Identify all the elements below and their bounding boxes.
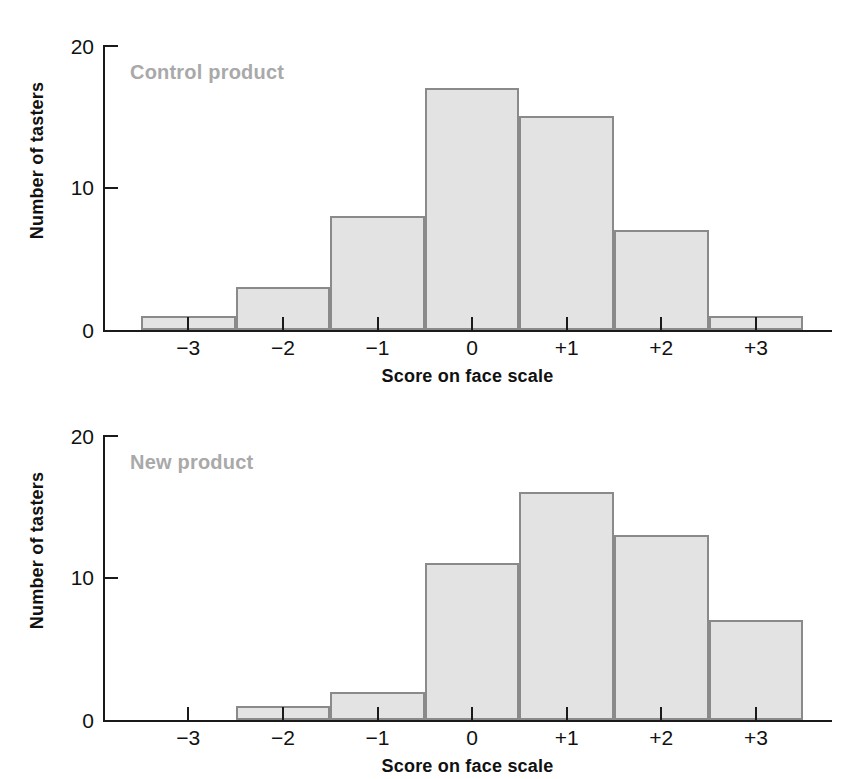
y-tick-label-0: 0	[48, 710, 94, 731]
x-tick-label-4: +1	[537, 727, 597, 748]
panel-label-new-product: New product	[130, 451, 253, 474]
bar-+3	[709, 620, 804, 720]
x-tick-label-1: −2	[253, 727, 313, 748]
x-tick-mark-4	[566, 317, 568, 331]
panel-control-product: Number of tasters 20 10 0 Control produc…	[0, 0, 865, 389]
x-tick-mark-4	[566, 707, 568, 721]
x-tick-mark-6	[755, 317, 757, 331]
y-tick-label-0: 0	[48, 320, 94, 341]
bar-0	[425, 88, 520, 330]
x-axis-line	[103, 330, 832, 332]
x-tick-mark-3	[471, 707, 473, 721]
y-tick-label-20: 20	[48, 426, 94, 447]
x-tick-label-2: −1	[348, 337, 408, 358]
y-tick-mark-20	[105, 45, 118, 47]
bar-minus1	[330, 216, 425, 330]
x-tick-mark-5	[660, 317, 662, 331]
x-tick-label-0: −3	[158, 727, 218, 748]
x-tick-mark-2	[377, 317, 379, 331]
x-tick-mark-2	[377, 707, 379, 721]
y-tick-mark-10	[105, 187, 118, 189]
x-tick-label-4: +1	[537, 337, 597, 358]
bar-+1	[519, 116, 614, 330]
x-tick-label-1: −2	[253, 337, 313, 358]
x-tick-label-3: 0	[442, 337, 502, 358]
x-tick-mark-1	[282, 707, 284, 721]
x-axis-title: Score on face scale	[103, 366, 832, 387]
x-tick-label-6: +3	[726, 727, 786, 748]
x-tick-label-5: +2	[631, 337, 691, 358]
bar-+1	[519, 492, 614, 720]
y-tick-label-20: 20	[48, 36, 94, 57]
x-tick-label-0: −3	[158, 337, 218, 358]
x-tick-label-6: +3	[726, 337, 786, 358]
y-axis-title: Number of tasters	[27, 401, 48, 701]
y-axis-line	[103, 45, 105, 331]
x-tick-label-5: +2	[631, 727, 691, 748]
bar-+2	[614, 230, 709, 330]
y-axis-line	[103, 435, 105, 721]
panel-label-control-product: Control product	[130, 61, 284, 84]
x-tick-mark-5	[660, 707, 662, 721]
x-tick-mark-6	[755, 707, 757, 721]
x-axis-title: Score on face scale	[103, 756, 832, 777]
panel-new-product: Number of tasters 20 10 0 New product −3…	[0, 390, 865, 779]
x-tick-mark-1	[282, 317, 284, 331]
x-axis-line	[103, 720, 832, 722]
x-tick-mark-0	[187, 317, 189, 331]
x-tick-label-2: −1	[348, 727, 408, 748]
x-tick-label-3: 0	[442, 727, 502, 748]
figure-histogram-pair: Number of tasters 20 10 0 Control produc…	[0, 0, 865, 779]
y-tick-label-10: 10	[48, 177, 94, 198]
x-tick-mark-0	[187, 707, 189, 721]
y-tick-mark-20	[105, 435, 118, 437]
bar-+2	[614, 535, 709, 720]
bar-0	[425, 563, 520, 720]
x-tick-mark-3	[471, 317, 473, 331]
y-tick-mark-10	[105, 577, 118, 579]
y-tick-label-10: 10	[48, 567, 94, 588]
y-axis-title: Number of tasters	[27, 11, 48, 311]
